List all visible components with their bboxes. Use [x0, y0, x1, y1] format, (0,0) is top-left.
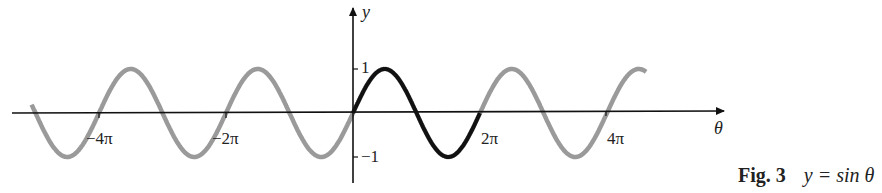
y-tick-neg1: −1 — [361, 148, 379, 165]
caption-label: Fig. 3 — [738, 164, 786, 186]
caption-equation: y = sin θ — [804, 164, 875, 186]
figure-caption: Fig. 3y = sin θ — [738, 164, 874, 187]
y-tick-1: 1 — [361, 59, 370, 76]
x-axis-label: θ — [714, 119, 723, 137]
x-tick-neg2pi: −2π — [212, 130, 239, 147]
x-tick-neg4pi: −4π — [86, 130, 113, 147]
x-tick-2pi: 2π — [481, 130, 498, 147]
x-axis — [12, 111, 724, 113]
sine-curve-highlight — [353, 69, 480, 157]
y-axis-label: y — [362, 3, 370, 21]
x-tick-4pi: 4π — [607, 130, 624, 147]
